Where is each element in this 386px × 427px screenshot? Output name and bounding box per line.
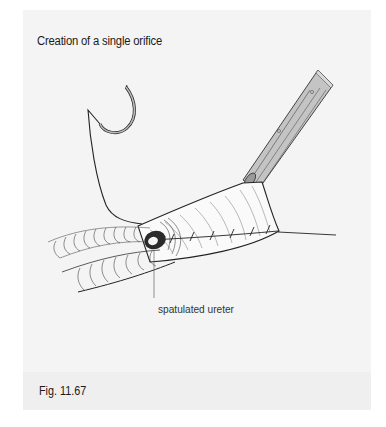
suture-thread xyxy=(88,110,142,224)
suture-thread-right xyxy=(278,232,336,235)
curved-needle-icon xyxy=(100,85,134,133)
surgical-illustration xyxy=(0,0,386,427)
figure-caption: Fig. 11.67 xyxy=(39,384,86,398)
forceps-instrument-icon xyxy=(242,70,333,190)
annotation-label-spatulated-ureter: spatulated ureter xyxy=(158,303,234,315)
